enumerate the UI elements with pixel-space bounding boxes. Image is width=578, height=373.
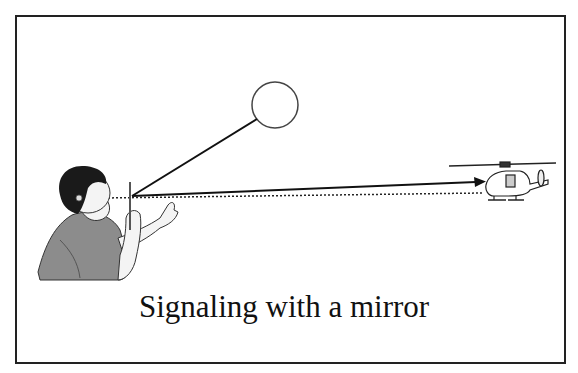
sun-circle: [252, 82, 298, 128]
arrowhead-icon: [474, 177, 486, 187]
person-holding-mirror: [38, 166, 178, 280]
sun-ray-line: [132, 119, 257, 196]
helicopter: [449, 162, 556, 200]
illustration: [0, 0, 578, 373]
